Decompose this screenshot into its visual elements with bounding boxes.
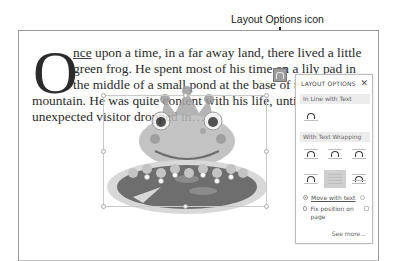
info-icon[interactable]: [364, 206, 369, 211]
resize-handle[interactable]: [101, 93, 106, 98]
resize-handle[interactable]: [183, 93, 188, 98]
section-with-text-wrapping: With Text Wrapping: [300, 132, 370, 142]
wrap-in-front-of-text-icon[interactable]: [352, 174, 366, 184]
panel-title: LAYOUT OPTIONS: [301, 80, 356, 87]
wrap-top-and-bottom-icon[interactable]: [304, 174, 318, 184]
resize-handle[interactable]: [264, 93, 269, 98]
section-in-line-with-text: In Line with Text: [300, 94, 370, 104]
move-with-text-label: Move with text: [311, 194, 355, 201]
resize-handle[interactable]: [264, 149, 269, 154]
callout-label: Layout Options icon: [231, 13, 324, 25]
wrap-tight-icon[interactable]: [328, 149, 342, 159]
resize-handle[interactable]: [183, 204, 188, 209]
in-line-with-text-icon[interactable]: [304, 111, 318, 121]
fix-position-label: Fix position on page: [310, 205, 359, 221]
drop-cap: O: [33, 45, 78, 99]
text-line: nce upon a time, in a far away land, the…: [73, 45, 362, 62]
see-more-link[interactable]: See more...: [332, 230, 366, 237]
text-span: upon a time, in a far away land, there l…: [92, 45, 362, 60]
wrap-square-icon[interactable]: [304, 149, 318, 159]
layout-options-icon: [276, 72, 284, 79]
image-selection-frame: [103, 95, 267, 207]
move-with-text-option[interactable]: Move with text: [303, 194, 355, 201]
resize-handle[interactable]: [101, 204, 106, 209]
wrap-through-icon[interactable]: [352, 149, 366, 159]
layout-options-panel: LAYOUT OPTIONS ✕ In Line with Text With …: [295, 74, 373, 244]
layout-options-button[interactable]: [273, 68, 287, 82]
fix-position-option[interactable]: Fix position on page: [303, 205, 359, 221]
close-icon[interactable]: ✕: [360, 78, 368, 88]
wrap-behind-text-icon[interactable]: [324, 170, 346, 188]
radio-checked-icon[interactable]: [303, 195, 308, 200]
radio-unchecked-icon[interactable]: [303, 206, 307, 211]
resize-handle[interactable]: [264, 204, 269, 209]
info-icon[interactable]: [360, 195, 365, 200]
resize-handle[interactable]: [101, 149, 106, 154]
spell-flagged-word[interactable]: nce: [73, 45, 92, 60]
